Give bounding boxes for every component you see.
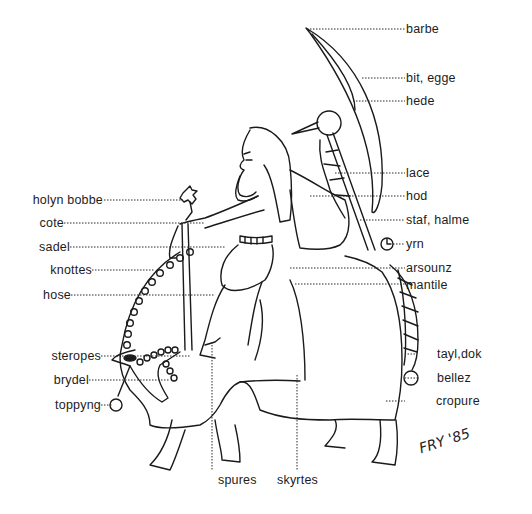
label-arsounz: arsounz (406, 261, 452, 275)
label-tayl-dok: tayl,dok (437, 347, 482, 361)
label-hede: hede (406, 94, 435, 108)
label-barbe: barbe (406, 22, 439, 36)
holly-sprig (180, 186, 197, 204)
label-holyn-bobbe: holyn bobbe (33, 193, 103, 207)
label-hose: hose (43, 288, 71, 302)
label-skyrtes: skyrtes (277, 473, 318, 487)
label-hod: hod (406, 189, 427, 203)
label-yrn: yrn (406, 237, 424, 251)
toppyng-ball (110, 399, 122, 411)
label-brydel: brydel (54, 373, 89, 387)
leader-lines (64, 29, 418, 470)
scythe-hede (317, 111, 341, 135)
label-steropes: steropes (51, 349, 101, 363)
label-staf-halme: staf, halme (406, 213, 469, 227)
label-sadel: sadel (39, 240, 70, 254)
label-bit-egge: bit, egge (406, 71, 456, 85)
label-mantile: mantile (406, 278, 448, 292)
rider-hood (250, 127, 292, 222)
label-bellez: bellez (437, 371, 471, 385)
label-toppyng: toppyng (55, 398, 101, 412)
label-cote: cote (40, 216, 64, 230)
label-cropure: cropure (436, 394, 480, 408)
label-lace: lace (406, 166, 430, 180)
label-knottes: knottes (50, 263, 92, 277)
label-spures: spures (218, 473, 257, 487)
diagram-canvas: barbe bit, egge hede lace hod staf, halm… (0, 0, 532, 514)
